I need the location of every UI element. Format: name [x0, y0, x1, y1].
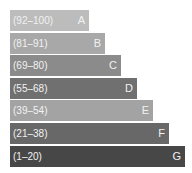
band-bar-e: (39–54)E: [10, 100, 153, 121]
band-letter-label: B: [94, 33, 101, 54]
band-letter-label: G: [172, 146, 181, 167]
band-letter-label: E: [142, 100, 149, 121]
band-bar-g: (1–20)G: [10, 146, 185, 167]
band-range-label: (92–100): [13, 10, 53, 31]
band-letter-label: C: [109, 55, 117, 76]
band-letter-label: A: [78, 10, 85, 31]
band-range-label: (81–91): [13, 33, 47, 54]
band-bar-a: (92–100)A: [10, 10, 89, 31]
band-range-label: (21–38): [13, 123, 47, 144]
band-letter-label: D: [125, 78, 133, 99]
band-bar-b: (81–91)B: [10, 33, 105, 54]
band-range-label: (39–54): [13, 100, 47, 121]
band-bar-d: (55–68)D: [10, 78, 137, 99]
band-bar-c: (69–80)C: [10, 55, 121, 76]
band-range-label: (69–80): [13, 55, 47, 76]
band-range-label: (1–20): [13, 146, 42, 167]
band-bar-f: (21–38)F: [10, 123, 169, 144]
band-letter-label: F: [158, 123, 165, 144]
band-range-label: (55–68): [13, 78, 47, 99]
